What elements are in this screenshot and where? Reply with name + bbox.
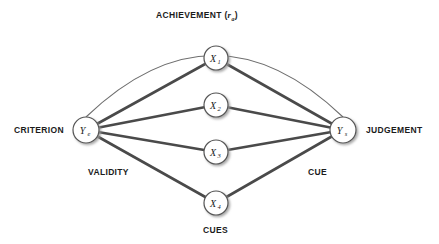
validity-edge-x1 <box>86 58 216 130</box>
node-cue-x4: X 4 <box>204 191 228 215</box>
achievement-label-symbol: ra <box>228 10 235 20</box>
achievement-label: ACHIEVEMENT (ra) <box>156 11 238 22</box>
judgement-label: JUDGEMENT <box>366 126 423 135</box>
achievement-label-prefix: ACHIEVEMENT ( <box>156 10 228 20</box>
validity-edge-x2 <box>86 105 216 130</box>
criterion-label: CRITERION <box>14 126 64 135</box>
lens-model-diagram: Y e Y s X 1 X 2 X 3 X <box>0 0 439 244</box>
cue-edge-x2 <box>216 105 343 130</box>
node-criterion-subscript: e <box>88 130 91 137</box>
cue-edge-x1 <box>216 58 343 130</box>
validity-label: VALIDITY <box>88 168 129 177</box>
node-cue-x2: X 2 <box>204 93 228 117</box>
node-cue-x2-symbol: X <box>209 100 217 111</box>
cues-label: CUES <box>203 226 228 235</box>
node-cue-x3: X 3 <box>204 140 228 164</box>
node-cue-x3-symbol: X <box>209 147 217 158</box>
node-cue-x4-symbol: X <box>209 198 217 209</box>
cue-label: CUE <box>308 168 327 177</box>
node-cue-x1: X 1 <box>204 46 228 70</box>
achievement-label-suffix: ) <box>235 10 238 20</box>
node-judgement: Y s <box>330 117 356 143</box>
node-criterion: Y e <box>73 117 99 143</box>
node-cue-x1-symbol: X <box>209 53 217 64</box>
diagram-canvas: Y e Y s X 1 X 2 X 3 X <box>0 0 439 244</box>
node-cue-x1-subscript: 1 <box>217 58 220 65</box>
